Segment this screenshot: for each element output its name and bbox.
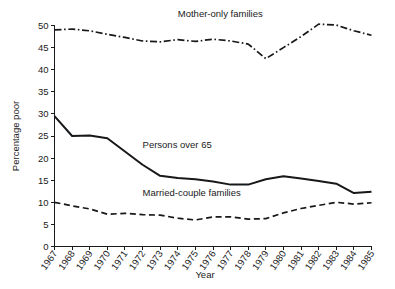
x-tick-label: 1971 [109,248,130,272]
y-tick-label: 35 [38,86,49,97]
x-tick-label: 1979 [250,248,271,272]
y-tick-label: 10 [38,197,49,208]
y-tick-label: 20 [38,153,49,164]
x-tick-label: 1980 [267,248,288,272]
y-tick-label: 40 [38,64,49,75]
x-axis-title: Year [195,269,214,280]
y-axis-title: Percentage poor [10,101,21,171]
series-annotations: Mother-only familiesPersons over 65Marri… [143,8,263,198]
y-tick-label: 50 [38,20,49,31]
x-tick-label: 1984 [338,248,359,272]
chart-figure: 0510152025303540455019671968196919701971… [0,0,395,289]
series-label-persons-over-65: Persons over 65 [143,139,212,150]
x-tick-label: 1969 [73,248,94,272]
x-tick-label: 1974 [161,248,182,272]
series-line-persons-over-65 [55,116,372,193]
x-tick-label: 1977 [214,248,235,272]
y-tick-label: 45 [38,42,49,53]
x-tick-label: 1968 [56,248,77,272]
x-tick-label: 1978 [232,248,253,272]
y-tick-label: 25 [38,130,49,141]
series-line-mother-only-families [55,24,372,58]
series-line-married-couple-families [55,202,372,220]
x-tick-label: 1983 [320,248,341,272]
x-tick-label: 1982 [302,248,323,272]
y-tick-label: 15 [38,175,49,186]
line-chart: 0510152025303540455019671968196919701971… [0,0,395,289]
x-tick-label: 1973 [144,248,165,272]
y-tick-label: 30 [38,108,49,119]
x-tick-label: 1981 [285,248,306,272]
x-tick-label: 1967 [38,248,59,272]
y-tick-label: 5 [43,219,48,230]
x-tick-label: 1972 [126,248,147,272]
x-tick-label: 1985 [355,248,376,272]
series-label-mother-only-families: Mother-only families [178,8,263,19]
y-tick-label: 0 [43,241,48,252]
series-label-married-couple-families: Married-couple families [143,187,241,198]
x-tick-label: 1970 [91,248,112,272]
